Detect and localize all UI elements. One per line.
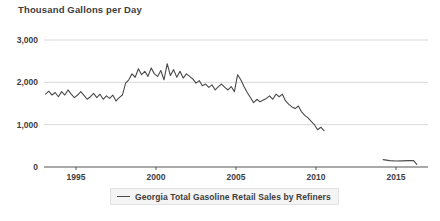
legend-line-swatch-icon (117, 196, 130, 197)
series-line (46, 64, 324, 131)
y-tick-label: 2,000 (17, 77, 39, 87)
x-tick-label: 1995 (67, 172, 86, 182)
x-axis-tick-labels: 19952000200520102015 (67, 167, 406, 182)
x-tick-label: 2015 (387, 172, 406, 182)
x-tick-label: 2000 (147, 172, 166, 182)
x-tick-label: 2010 (307, 172, 326, 182)
y-tick-label: 0 (33, 162, 38, 172)
x-tick-label: 2005 (227, 172, 246, 182)
y-axis-tick-labels: 01,0002,0003,000 (17, 35, 39, 172)
chart-legend[interactable]: Georgia Total Gasoline Retail Sales by R… (110, 188, 339, 205)
y-tick-label: 1,000 (17, 120, 39, 130)
legend-label: Georgia Total Gasoline Retail Sales by R… (135, 192, 331, 202)
series-line (383, 160, 417, 165)
y-tick-label: 3,000 (17, 35, 39, 45)
data-series-lines (46, 64, 417, 165)
gasoline-retail-sales-chart: Thousand Gallons per Day 01,0002,0003,00… (0, 0, 440, 221)
